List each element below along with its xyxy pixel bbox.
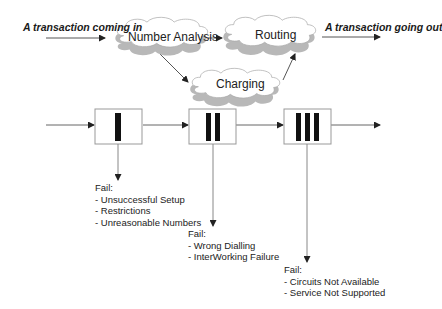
fail-item: - Restrictions [95, 205, 201, 217]
fail-item: - Unreasonable Numbers [95, 217, 201, 229]
outgoing-label: A transaction going out [325, 21, 442, 33]
fail-item: - Service Not Supported [284, 287, 385, 299]
charging-label: Charging [216, 77, 265, 91]
incoming-label: A transaction coming in [23, 21, 142, 33]
fail-item: - Unsuccessful Setup [95, 194, 201, 206]
stage-I-box [95, 109, 142, 144]
routing-label: Routing [255, 28, 296, 42]
number-analysis-label: Number Analysis [128, 30, 218, 44]
fail-list-II: Fail: - Wrong Dialling - InterWorking Fa… [188, 228, 279, 263]
fail-title: Fail: [188, 228, 279, 240]
fail-list-I: Fail: - Unsuccessful Setup - Restriction… [95, 182, 201, 228]
fail-title: Fail: [95, 182, 201, 194]
fail-item: - InterWorking Failure [188, 251, 279, 263]
analysis-to-charging-arrow [160, 54, 188, 82]
stage-II-box [189, 109, 236, 144]
fail-list-III: Fail: - Circuits Not Available - Service… [284, 264, 385, 299]
stage-III-box [284, 109, 331, 144]
fail-item: - Circuits Not Available [284, 276, 385, 288]
charging-to-routing-arrow [283, 54, 295, 80]
fail-item: - Wrong Dialling [188, 240, 279, 252]
fail-title: Fail: [284, 264, 385, 276]
